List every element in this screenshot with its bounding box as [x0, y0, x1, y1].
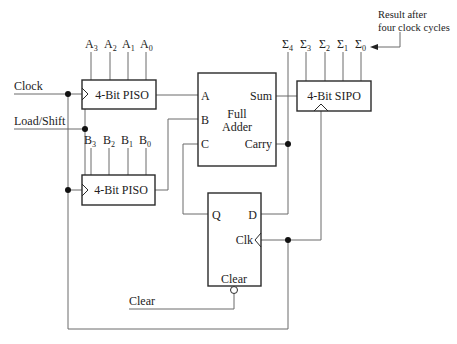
ff-port-clk: Clk — [236, 233, 253, 247]
fa-title-1: Full — [227, 107, 247, 121]
svg-text:Σ2: Σ2 — [319, 37, 330, 53]
arrow-head-icon — [370, 44, 378, 50]
piso-b-out-wire — [155, 119, 198, 190]
d-flip-flop-block: Q D Clk Clear — [208, 193, 261, 294]
result-arrow-line — [376, 32, 400, 47]
piso-b-inputs: B3 B2 B1 B0 — [84, 133, 151, 149]
fa-port-sum: Sum — [250, 89, 273, 103]
svg-text:Σ0: Σ0 — [355, 37, 366, 53]
result-note-line2: four clock cycles — [378, 22, 450, 33]
result-note-line1: Result after — [378, 9, 427, 20]
svg-text:B3: B3 — [84, 133, 96, 149]
sipo-block: 4-Bit SIPO — [297, 81, 371, 111]
sipo-label: 4-Bit SIPO — [307, 89, 361, 103]
ff-port-clear: Clear — [221, 272, 247, 286]
piso-b-label: 4-Bit PISO — [94, 183, 148, 197]
ff-port-d: D — [248, 208, 257, 222]
fa-port-carry: Carry — [245, 137, 272, 151]
svg-text:B2: B2 — [103, 133, 115, 149]
svg-text:A2: A2 — [104, 37, 117, 53]
ff-port-q: Q — [212, 208, 221, 222]
fa-port-b: B — [201, 113, 209, 127]
svg-text:B0: B0 — [139, 133, 151, 149]
load-shift-label: Load/Shift — [14, 114, 66, 128]
piso-b-block: 4-Bit PISO — [82, 175, 155, 205]
svg-text:Σ4: Σ4 — [282, 37, 293, 53]
svg-text:Σ1: Σ1 — [337, 37, 348, 53]
inversion-bubble-icon — [231, 287, 238, 294]
svg-text:B1: B1 — [121, 133, 133, 149]
fa-title-2: Adder — [222, 120, 252, 134]
piso-a-inputs: A3 A2 A1 A0 — [85, 37, 153, 53]
full-adder-block: A B C Sum Carry Full Adder — [198, 73, 276, 166]
svg-text:A3: A3 — [85, 37, 98, 53]
circuit-diagram: 4-Bit PISO 4-Bit PISO A B C Sum Carry Fu… — [0, 0, 457, 344]
sipo-outputs: Σ4 Σ3 Σ2 Σ1 Σ0 — [282, 37, 366, 53]
piso-a-block: 4-Bit PISO — [82, 80, 156, 109]
svg-text:A0: A0 — [140, 37, 153, 53]
svg-text:Σ3: Σ3 — [300, 37, 311, 53]
fa-port-a: A — [201, 89, 210, 103]
fa-port-c: C — [201, 137, 209, 151]
clear-label: Clear — [129, 294, 155, 308]
piso-a-label: 4-Bit PISO — [95, 88, 149, 102]
svg-text:A1: A1 — [122, 37, 135, 53]
clock-label: Clock — [14, 79, 43, 93]
